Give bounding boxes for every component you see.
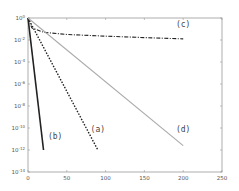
curve-label-d: (d): [176, 125, 190, 134]
x-tick-label: 250: [217, 175, 228, 181]
curve-label-b: (b): [48, 132, 62, 141]
series-line-a: [28, 18, 98, 150]
x-tick-label: 150: [139, 175, 150, 181]
line-chart: 10010-210-410-610-810-1010-1210-14 05010…: [0, 0, 239, 191]
curve-label-a: (a): [91, 125, 105, 134]
x-tick-label: 100: [100, 175, 111, 181]
y-tick-label: 10-6: [14, 80, 25, 88]
data-series: [28, 18, 183, 150]
series-line-c: [28, 18, 183, 39]
y-tick-label: 10-14: [11, 168, 25, 176]
axis-ticks: [28, 18, 222, 172]
x-tick-label: 0: [26, 175, 30, 181]
y-tick-label: 100: [15, 14, 25, 22]
x-tick-label: 200: [178, 175, 189, 181]
y-tick-label: 10-4: [14, 58, 25, 66]
y-tick-label: 10-12: [11, 146, 25, 154]
x-tick-label: 50: [63, 175, 70, 181]
curve-label-c: (c): [176, 20, 190, 29]
y-tick-label: 10-10: [11, 124, 25, 132]
x-axis-tick-labels: 050100150200250: [26, 175, 227, 181]
y-tick-label: 10-2: [14, 36, 25, 44]
plot-frame: [28, 18, 222, 172]
curve-labels: (a)(b)(c)(d): [48, 20, 190, 141]
series-line-d: [28, 18, 183, 146]
series-line-b: [28, 18, 44, 150]
y-axis-tick-labels: 10010-210-410-610-810-1010-1210-14: [11, 14, 25, 176]
y-tick-label: 10-8: [14, 102, 25, 110]
